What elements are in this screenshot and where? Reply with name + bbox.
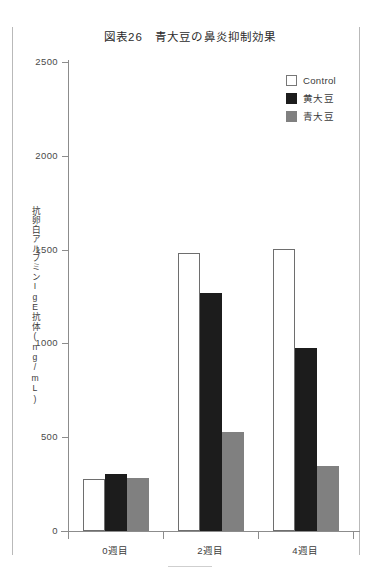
y-tick-label: 2000 xyxy=(16,150,58,161)
x-tick xyxy=(258,532,259,539)
bar-青大豆-0週目 xyxy=(127,478,149,531)
x-group-label-4週目: 4週目 xyxy=(261,543,351,557)
x-group-label-2週目: 2週目 xyxy=(166,543,256,557)
y-tick-label: 1000 xyxy=(16,337,58,348)
chart-title: 図表26 青大豆の鼻炎抑制効果 xyxy=(0,28,380,44)
y-tick-label: 1500 xyxy=(16,244,58,255)
footer-rule xyxy=(168,566,212,567)
y-tick-label: 500 xyxy=(16,431,58,442)
legend-label: 黄大豆 xyxy=(303,91,334,105)
y-tick-label: 0 xyxy=(16,525,58,536)
bar-青大豆-2週目 xyxy=(222,432,244,531)
legend-label: Control xyxy=(303,75,336,86)
legend-swatch-icon xyxy=(286,111,297,122)
x-tick xyxy=(163,532,164,539)
bar-Control-2週目 xyxy=(178,253,200,531)
y-tick-label: 2500 xyxy=(16,56,58,67)
legend-item-Control: Control xyxy=(286,72,336,88)
bar-黄大豆-4週目 xyxy=(295,348,317,531)
bar-黄大豆-2週目 xyxy=(200,293,222,531)
y-axis-label: 抗卵白アルブミンIgE抗体(ng/mL) xyxy=(24,206,39,386)
legend-swatch-icon xyxy=(286,93,297,104)
x-axis-line xyxy=(61,531,360,532)
bar-Control-0週目 xyxy=(83,479,105,531)
legend-item-青大豆: 青大豆 xyxy=(286,108,336,124)
legend-swatch-icon xyxy=(286,75,297,86)
bar-Control-4週目 xyxy=(273,249,295,531)
chart-legend: Control黄大豆青大豆 xyxy=(286,72,336,126)
x-group-label-0週目: 0週目 xyxy=(71,543,161,557)
legend-item-黄大豆: 黄大豆 xyxy=(286,90,336,106)
bar-黄大豆-0週目 xyxy=(105,474,127,531)
legend-label: 青大豆 xyxy=(303,109,334,123)
bar-青大豆-4週目 xyxy=(317,466,339,531)
x-tick xyxy=(353,532,354,539)
x-tick xyxy=(68,532,69,539)
plot-area xyxy=(68,62,353,531)
